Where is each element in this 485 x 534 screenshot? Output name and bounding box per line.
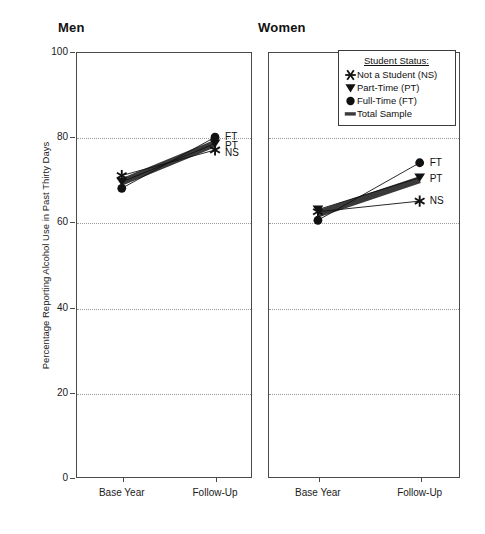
y-tick-0: [70, 478, 75, 479]
series-line-circle-women: [318, 163, 420, 221]
legend: Student Status:Not a Student (NS)Part-Ti…: [338, 50, 456, 126]
end-label-women-ns: NS: [430, 195, 444, 206]
y-tick-100: [70, 52, 75, 53]
y-tick-20: [70, 393, 75, 394]
end-label-men-ns: NS: [225, 147, 239, 158]
series-line-total-sample-women: [318, 180, 420, 214]
y-tick-40: [70, 308, 75, 309]
y-tick-label-0: 0: [36, 473, 68, 483]
legend-item-circle[interactable]: Full-Time (FT): [344, 94, 449, 107]
end-label-women-pt: PT: [430, 173, 443, 184]
legend-item-star[interactable]: Not a Student (NS): [344, 68, 449, 81]
legend-item-label: Not a Student (NS): [357, 69, 437, 80]
legend-title: Student Status:: [344, 55, 449, 66]
chart-figure: Percentage Reporting Alcohol Use in Past…: [0, 0, 485, 534]
star-icon: [344, 68, 357, 81]
circle-icon: [344, 94, 357, 107]
y-tick-label-20: 20: [36, 388, 68, 398]
y-tick-60: [70, 222, 75, 223]
legend-item-thick-bar[interactable]: Total Sample: [344, 107, 449, 120]
triangle-down-icon: [344, 81, 357, 94]
y-tick-label-80: 80: [36, 132, 68, 142]
series-line-triangle-down-women: [318, 178, 420, 210]
end-label-women-ft: FT: [430, 157, 442, 168]
datapoint-women-circle-1: [415, 158, 424, 167]
legend-item-triangle-down[interactable]: Part-Time (PT): [344, 81, 449, 94]
datapoint-women-circle-0: [314, 216, 323, 225]
y-tick-label-100: 100: [36, 47, 68, 57]
legend-item-label: Full-Time (FT): [357, 95, 417, 106]
legend-item-label: Total Sample: [357, 108, 412, 119]
y-tick-80: [70, 137, 75, 138]
legend-item-label: Part-Time (PT): [357, 82, 419, 93]
thick-bar-icon: [344, 107, 357, 120]
y-tick-label-40: 40: [36, 303, 68, 313]
y-tick-label-60: 60: [36, 217, 68, 227]
